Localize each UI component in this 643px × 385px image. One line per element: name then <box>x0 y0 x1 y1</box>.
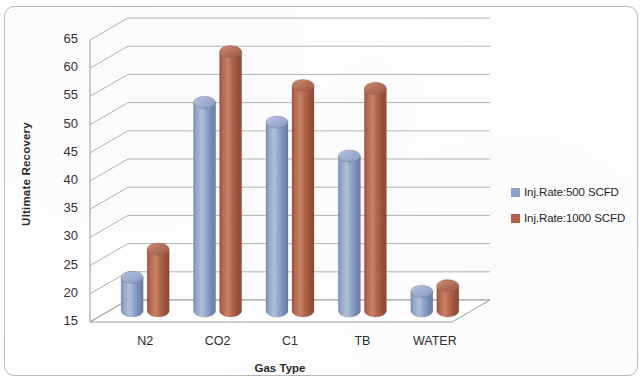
y-axis-title: Ultimate Recovery <box>20 104 32 244</box>
legend-item: Inj.Rate:500 SCFD <box>511 186 636 198</box>
y-tick-label: 15 <box>44 313 78 328</box>
y-tick-label: 55 <box>44 87 78 102</box>
x-tick-label-tb: TB <box>322 334 402 348</box>
x-tick-label-n2: N2 <box>105 334 185 348</box>
y-tick-label: 30 <box>44 228 78 243</box>
x-axis-title: Gas Type <box>180 362 380 374</box>
y-tick-label: 45 <box>44 144 78 159</box>
y-tick-label: 50 <box>44 116 78 131</box>
x-tick-label-water: WATER <box>395 334 475 348</box>
y-tick-label: 40 <box>44 172 78 187</box>
x-tick-label-c1: C1 <box>250 334 330 348</box>
y-tick-label: 25 <box>44 257 78 272</box>
y-tick-label: 65 <box>44 31 78 46</box>
legend-swatch-icon <box>511 214 520 223</box>
legend-swatch-icon <box>511 188 520 197</box>
y-tick-label: 20 <box>44 285 78 300</box>
chart-legend: Inj.Rate:500 SCFD Inj.Rate:1000 SCFD <box>511 186 636 238</box>
y-tick-label: 60 <box>44 59 78 74</box>
legend-item-label: Inj.Rate:1000 SCFD <box>524 212 625 224</box>
legend-item: Inj.Rate:1000 SCFD <box>511 212 636 224</box>
x-tick-label-co2: CO2 <box>178 334 258 348</box>
y-tick-label: 35 <box>44 200 78 215</box>
legend-item-label: Inj.Rate:500 SCFD <box>524 186 619 198</box>
